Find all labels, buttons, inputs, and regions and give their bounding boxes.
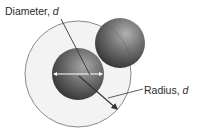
radius-label: Radius, d (144, 85, 188, 96)
radius-variable: d (183, 84, 189, 96)
neighbor-sphere (95, 18, 145, 68)
diameter-label: Diameter, d (5, 6, 59, 17)
diameter-label-text: Diameter, (5, 5, 53, 17)
radius-label-text: Radius, (144, 84, 183, 96)
diameter-variable: d (53, 5, 59, 17)
sphere-diagram (0, 0, 203, 133)
